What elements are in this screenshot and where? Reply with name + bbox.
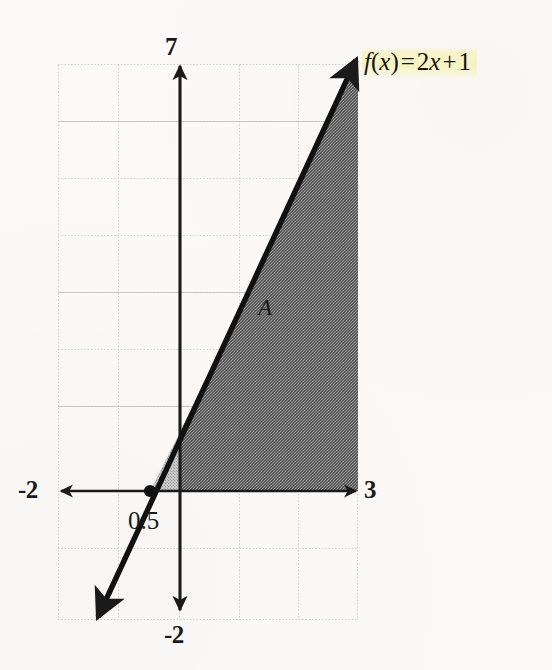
function-variable: x: [429, 48, 440, 75]
x-axis-right-label: 3: [364, 477, 376, 502]
graph-canvas: [0, 0, 552, 670]
function-equation-label: f(x)=2x+1: [362, 47, 477, 78]
graph-figure: 7 -2 -2 3 0.5 A f(x)=2x+1: [0, 0, 552, 670]
function-equals-sign: =: [399, 48, 417, 75]
x-intercept-dot: [144, 485, 156, 497]
shaded-region-light-sliver: [150, 432, 180, 491]
function-constant: 1: [459, 48, 472, 75]
function-name: f: [364, 48, 371, 75]
area-region-label: A: [258, 296, 272, 319]
shaded-region-area-a: [180, 63, 358, 491]
function-plus-sign: +: [440, 48, 458, 75]
x-intercept-label: 0.5: [128, 508, 159, 533]
function-coefficient: 2: [417, 48, 430, 75]
y-axis-top-label: 7: [165, 34, 177, 59]
x-axis-left-label: -2: [18, 477, 38, 502]
function-paren-close: ): [390, 48, 398, 75]
y-axis-bottom-label: -2: [164, 622, 184, 647]
function-argument: x: [379, 48, 390, 75]
